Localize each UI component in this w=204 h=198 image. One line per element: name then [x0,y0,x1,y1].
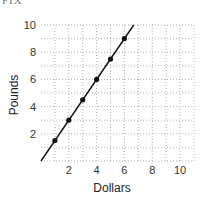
x-tick-label: 4 [94,164,100,176]
data-point [122,36,127,41]
x-axis-title: Dollars [93,181,130,195]
y-tick-label: 6 [30,73,36,85]
x-tick-label: 10 [174,164,186,176]
y-axis-title: Pounds [7,75,21,116]
data-point [52,138,57,143]
data-point [80,97,85,102]
data-point [108,56,113,61]
x-tick-label: 2 [66,164,72,176]
y-tick-label: 8 [30,46,36,58]
x-tick-label: 8 [149,164,155,176]
x-axis-tick-labels: 246810 [66,164,186,176]
y-tick-label: 10 [24,19,36,31]
x-tick-label: 6 [121,164,127,176]
y-tick-label: 2 [30,128,36,140]
grid-lines [41,25,194,161]
line-chart: 246810 246810 Dollars Pounds [0,0,204,198]
y-tick-label: 4 [30,101,36,113]
data-point [66,118,71,123]
y-axis-tick-labels: 246810 [24,19,36,140]
data-point [94,77,99,82]
